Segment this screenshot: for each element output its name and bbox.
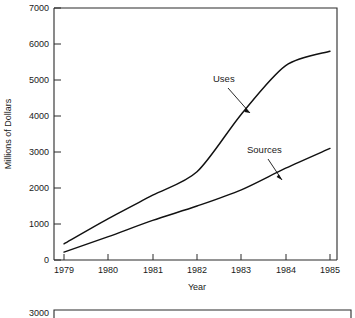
x-axis-title: Year	[188, 282, 206, 292]
y-tick-label: 7000	[29, 3, 49, 13]
series-line-uses	[64, 51, 330, 244]
line-chart-sources-and-uses: 0 1000 2000 3000 4000 5000 6000 7000 197…	[0, 0, 355, 318]
y-tick-label: 3000	[29, 147, 49, 157]
x-tick-label: 1985	[320, 265, 340, 275]
series-line-sources	[64, 148, 330, 252]
second-chart-y-tick-label: 3000	[29, 308, 49, 318]
plot-frame	[54, 8, 337, 260]
figure-container: 0 1000 2000 3000 4000 5000 6000 7000 197…	[0, 0, 355, 318]
annotation-sources: Sources	[247, 144, 282, 180]
y-tick-label: 6000	[29, 39, 49, 49]
y-axis-title: Millions of Dollars	[3, 98, 13, 169]
y-axis-tick-labels: 0 1000 2000 3000 4000 5000 6000 7000	[29, 3, 49, 265]
x-axis-tick-labels: 1979 1980 1981 1982 1983 1984 1985	[54, 265, 340, 275]
y-tick-label: 2000	[29, 183, 49, 193]
second-chart-partial: 3000	[29, 308, 351, 318]
y-tick-label: 5000	[29, 75, 49, 85]
second-chart-frame	[54, 310, 351, 318]
annotation-uses: Uses	[213, 73, 250, 113]
x-axis-ticks	[64, 254, 330, 260]
y-axis-ticks	[54, 8, 61, 260]
series-label-sources: Sources	[247, 144, 282, 155]
y-tick-label: 1000	[29, 219, 49, 229]
x-tick-label: 1980	[98, 265, 118, 275]
x-tick-label: 1979	[54, 265, 74, 275]
series-label-uses: Uses	[213, 73, 235, 84]
y-tick-label: 4000	[29, 111, 49, 121]
x-tick-label: 1982	[187, 265, 207, 275]
x-tick-label: 1981	[143, 265, 163, 275]
y-tick-label: 0	[44, 255, 49, 265]
x-tick-label: 1983	[231, 265, 251, 275]
x-tick-label: 1984	[276, 265, 296, 275]
